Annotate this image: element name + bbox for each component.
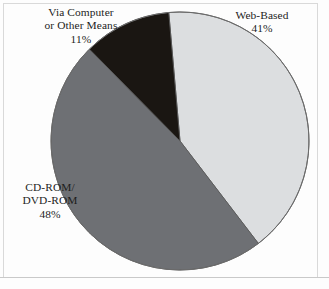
pie-label-via-computer-or-other-means: Via Computer or Other Means 11% xyxy=(22,6,140,46)
chart-area: Web-Based 41% CD-ROM/ DVD-ROM 48% Via Co… xyxy=(0,0,329,289)
pie-label-web-based-value: 41% xyxy=(214,22,310,35)
pie-label-cd-rom-dvd-rom-line-1: DVD-ROM xyxy=(2,194,98,207)
pie-label-cd-rom-dvd-rom: CD-ROM/ DVD-ROM 48% xyxy=(2,181,98,221)
pie-label-via-computer-or-other-means-value: 11% xyxy=(22,33,140,46)
pie-slices xyxy=(51,12,309,270)
pie-label-via-computer-or-other-means-line-1: or Other Means xyxy=(22,19,140,32)
pie-label-cd-rom-dvd-rom-value: 48% xyxy=(2,208,98,221)
pie-label-cd-rom-dvd-rom-line-0: CD-ROM/ xyxy=(2,181,98,194)
pie-label-web-based-line-0: Web-Based xyxy=(214,9,310,22)
pie-chart-figure: Web-Based 41% CD-ROM/ DVD-ROM 48% Via Co… xyxy=(0,0,329,289)
pie-label-via-computer-or-other-means-line-0: Via Computer xyxy=(22,6,140,19)
pie-label-web-based: Web-Based 41% xyxy=(214,9,310,36)
